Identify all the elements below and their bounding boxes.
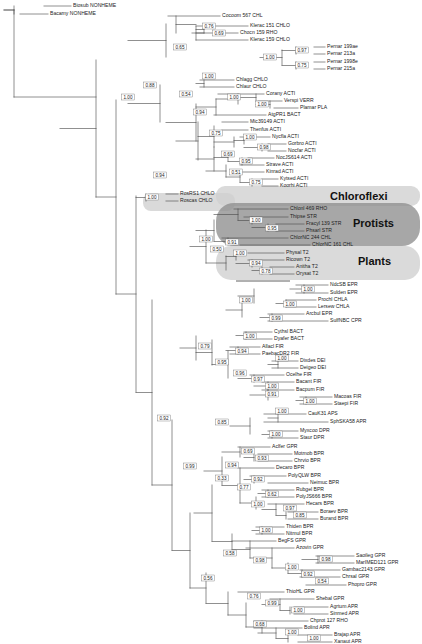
taxon-label-t74: Saoileg GPR [356, 552, 386, 558]
support-label: 1.00 [272, 432, 281, 437]
support-label: 1.00 [288, 565, 297, 570]
taxon-label-t52: Bacpum FIR [296, 386, 325, 392]
taxon-label-t10: Chlagg CHLO [236, 76, 268, 82]
support-node-s60: 0.98 [254, 557, 267, 563]
support-node-s61: 0.98 [320, 556, 333, 562]
taxon-label-t69: Burand BPR [320, 515, 349, 521]
support-label: 1.00 [258, 102, 267, 107]
support-label: 0.54 [318, 579, 327, 584]
support-label: 0.94 [196, 110, 205, 115]
support-label: 0.94 [252, 261, 261, 266]
taxon-label-t18: Nycfla ACTI [272, 133, 299, 139]
support-label: 0.78 [262, 269, 271, 274]
support-node-s42: 0.91 [266, 391, 279, 397]
support-label: 0.50 [213, 247, 222, 252]
support-node-s33: 0.99 [270, 315, 283, 321]
support-node-s25: 1.00 [234, 250, 247, 256]
support-label: 0.69 [224, 152, 233, 157]
support-label: 0.91 [228, 240, 237, 245]
taxon-label-t49: Deigeo DEI [300, 364, 326, 370]
support-label: 0.95 [218, 360, 227, 365]
support-node-s46: 0.85 [216, 419, 229, 425]
taxon-label-t71: Nitmul BPR [286, 530, 313, 536]
support-label: 1.00 [230, 95, 239, 100]
support-label: 1.00 [205, 74, 214, 79]
taxon-label-t39: Sulden EPR [330, 289, 358, 295]
taxon-label-t42: Arcbul EPR [306, 310, 333, 316]
support-label: 0.54 [182, 92, 191, 97]
support-node-s17: 0.95 [240, 158, 253, 164]
support-label: 0.98 [256, 558, 265, 563]
support-node-s59: 0.58 [224, 550, 237, 556]
support-node-s5: 1.00 [264, 54, 277, 60]
support-node-s37: 0.94 [236, 348, 249, 354]
support-node-s49: 0.93 [256, 455, 269, 461]
support-node-s57: 0.85 [294, 512, 307, 518]
support-label: 0.97 [254, 377, 263, 382]
support-label: 1.00 [254, 502, 263, 507]
support-node-s3: 0.76 [203, 23, 216, 29]
support-node-s4: 0.69 [213, 30, 226, 36]
support-node-s18: 0.51 [230, 169, 243, 175]
support-node-s27: 0.78 [260, 268, 273, 274]
taxon-label-t19: Gorbro ACTI [288, 140, 317, 146]
taxon-label-t8: Pernar 1998e [327, 58, 358, 64]
taxon-label-t54: Staepi FIR [334, 400, 358, 406]
tree-canvas: 1.000.880.650.760.691.000.970.751.000.54… [0, 0, 422, 644]
group-label-protists: Protists [353, 217, 394, 229]
support-label: 0.94 [228, 463, 237, 468]
support-node-s15: 0.98 [258, 144, 271, 150]
taxon-label-t62: Decaro BPR [276, 464, 305, 470]
support-label: 0.95 [268, 226, 277, 231]
support-label: 0.99 [268, 601, 277, 606]
support-label: 0.98 [260, 145, 269, 150]
support-node-s19: 0.75 [250, 179, 263, 185]
taxon-label-t13: Verspi VERR [284, 97, 314, 103]
taxon-label-t76: Gambac2143 GPR [342, 566, 385, 572]
taxon-label-t53: Macoas FIR [334, 393, 362, 399]
taxon-label-t5: Klerac 159 CHLO [250, 36, 290, 42]
support-label: 0.92 [160, 416, 169, 421]
support-label: 0.94 [156, 173, 165, 178]
support-label: 0.85 [296, 513, 305, 518]
support-node-s21: 1.00 [146, 194, 159, 200]
taxon-label-t17: Thenfus ACTI [250, 126, 281, 132]
support-node-s56: 0.97 [284, 505, 297, 511]
support-node-s50: 0.94 [226, 462, 239, 468]
taxon-label-t6: Pernar 199ae [327, 43, 358, 49]
support-label: 1.00 [236, 251, 245, 256]
support-node-s12: 0.94 [194, 109, 207, 115]
group-label-chloroflexi: Chloroflexi [330, 190, 387, 202]
taxon-label-t65: Rubgel BPR [296, 486, 324, 492]
support-label: 0.76 [250, 594, 259, 599]
taxon-label-t67: Hecars BPR [306, 500, 334, 506]
support-node-s13: 0.75 [210, 130, 223, 136]
support-label: 1.00 [288, 630, 297, 635]
support-node-s22: 1.00 [250, 217, 263, 223]
taxon-label-t40: Prochl CHLA [318, 296, 348, 302]
taxon-label-t68: Boraev BPR [320, 508, 348, 514]
taxon-label-t45: Dyafer BACT [274, 335, 304, 341]
support-node-s0: 1.00 [122, 94, 135, 100]
taxon-label-t59: Aclfer GPR [272, 443, 298, 449]
taxon-label-t0: Biosub NONHEME [73, 2, 117, 8]
support-node-s41: 1.00 [266, 383, 279, 389]
taxon-label-t81: Agrtum APR [330, 603, 358, 609]
taxon-label-t80: Shebal GPR [316, 595, 345, 601]
taxon-label-t55: CauK31 APS [308, 410, 338, 416]
support-label: 0.97 [298, 48, 307, 53]
support-label: 0.75 [212, 131, 221, 136]
taxon-label-t26: RosRS1 CHLO [180, 190, 215, 196]
support-node-s48: 0.69 [242, 448, 255, 454]
support-label: 0.79 [201, 344, 210, 349]
support-node-s7: 0.75 [296, 62, 309, 68]
support-label: 1.00 [286, 302, 295, 307]
taxon-label-t30: Fracyl 139 STR [306, 220, 342, 226]
taxon-label-t47: PaebacDR2 FIR [262, 350, 299, 356]
support-node-s69: 1.00 [292, 607, 305, 613]
support-label: 1.00 [306, 399, 315, 404]
taxon-label-t21: NocJS614 ACTI [276, 154, 312, 160]
taxon-label-t41: Lersew CHLA [318, 303, 350, 309]
support-label: 0.95 [242, 159, 251, 164]
support-node-s63: 0.92 [302, 571, 315, 577]
